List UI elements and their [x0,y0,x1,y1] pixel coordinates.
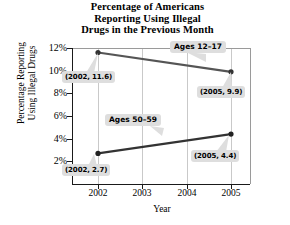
data-point-2005-9.9 [228,69,233,74]
chart-figure: Percentage of Americans Reporting Using … [0,0,290,225]
series-line-ages-12-17 [98,53,231,72]
y-axis-title: Percentage Reporting Using Illegal Drugs [16,18,38,148]
annotation-ages-50-59: Ages 50–59 [105,114,161,126]
callout-2005-9.9: (2005, 9.9) [197,86,245,98]
plot-frame-right [250,48,251,184]
data-point-2002-2.7 [95,151,100,156]
y-axis-title-line-2: Using Illegal Drugs [27,18,38,148]
x-tick-label-2002: 2002 [81,188,115,198]
callout-2002-2.7: (2002, 2.7) [62,164,110,176]
x-tick-label-2003: 2003 [125,188,159,198]
x-tick-label-2005: 2005 [214,188,248,198]
y-tick-label-8: 8% [54,87,67,98]
annotation-ages-12-17: Ages 12–17 [170,41,226,53]
x-tick-label-2004: 2004 [170,188,204,198]
chart-title-line-3: Drugs in the Previous Month [40,24,255,36]
callout-2005-4.4: (2005, 4.4) [191,150,239,162]
y-tick-label-6: 6% [54,110,67,121]
y-tick-label-12: 12% [49,42,67,53]
callout-2002-11.6: (2002, 11.6) [62,71,115,83]
y-tick-label-4: 4% [54,133,67,144]
x-axis-title: Year [72,204,252,214]
chart-title-line-1: Percentage of Americans [40,1,255,13]
chart-title-line-2: Reporting Using Illegal [40,13,255,25]
y-axis-title-line-1: Percentage Reporting [16,18,27,148]
data-point-2005-4.4 [228,132,233,137]
chart-title: Percentage of Americans Reporting Using … [40,1,255,36]
data-point-2002-11.6 [95,50,100,55]
